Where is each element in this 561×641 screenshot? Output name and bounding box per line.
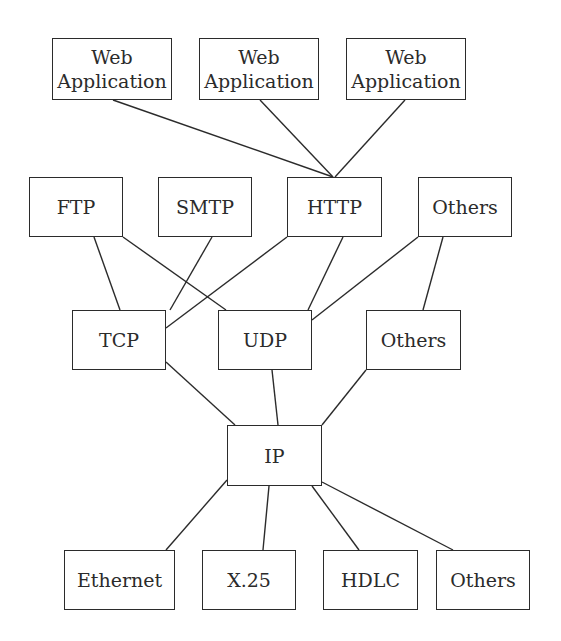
edge-udp-to-ip — [272, 370, 278, 425]
node-label: FTP — [57, 195, 96, 219]
node-label: Web Application — [204, 45, 314, 93]
node-ethernet: Ethernet — [64, 550, 175, 610]
node-label: HTTP — [307, 195, 362, 219]
edge-ftp-to-udp — [123, 237, 226, 310]
node-label: Ethernet — [77, 568, 162, 592]
node-udp: UDP — [218, 310, 312, 370]
node-label: Web Application — [351, 45, 461, 93]
edge-transport_others-to-ip — [322, 370, 366, 425]
node-smtp: SMTP — [158, 177, 252, 237]
node-link-others: Others — [436, 550, 530, 610]
node-tcp: TCP — [72, 310, 166, 370]
node-ftp: FTP — [29, 177, 123, 237]
edge-ip-to-ethernet — [166, 480, 227, 550]
node-x25: X.25 — [202, 550, 296, 610]
edge-ip-to-hdlc — [312, 486, 359, 550]
protocol-diagram: Web Application Web Application Web Appl… — [0, 0, 561, 641]
node-ip: IP — [227, 425, 322, 486]
node-label: IP — [264, 444, 284, 468]
node-label: Web Application — [57, 45, 167, 93]
edge-ip-to-x25 — [263, 486, 269, 550]
edge-ftp-to-tcp — [94, 237, 120, 310]
edge-tcp-to-ip — [166, 362, 235, 425]
edge-ip-to-link_others — [322, 482, 453, 550]
node-label: TCP — [99, 328, 139, 352]
edge-webapp2-to-http — [260, 100, 333, 177]
edge-app_others-to-udp — [312, 237, 418, 320]
node-label: Others — [450, 568, 516, 592]
node-label: Others — [381, 328, 447, 352]
node-label: X.25 — [227, 568, 271, 592]
node-web-application-3: Web Application — [346, 38, 466, 100]
node-label: Others — [432, 195, 498, 219]
edge-smtp-to-tcp — [170, 237, 212, 310]
edge-webapp1-to-http — [113, 100, 333, 177]
node-http: HTTP — [287, 177, 382, 237]
edge-webapp3-to-http — [335, 100, 405, 177]
node-label: SMTP — [176, 195, 234, 219]
node-label: UDP — [243, 328, 287, 352]
edge-app_others-to-transport_others — [423, 237, 443, 310]
node-hdlc: HDLC — [323, 550, 418, 610]
node-web-application-1: Web Application — [52, 38, 172, 100]
node-transport-others: Others — [366, 310, 461, 370]
node-web-application-2: Web Application — [199, 38, 319, 100]
node-application-others: Others — [418, 177, 512, 237]
node-label: HDLC — [341, 568, 400, 592]
